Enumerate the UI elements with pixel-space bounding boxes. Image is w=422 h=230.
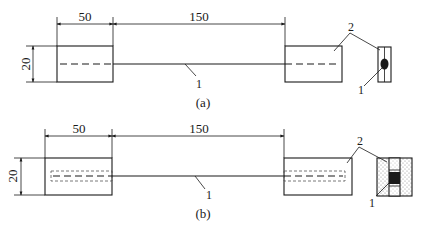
label-wire: 1 [196,77,202,91]
diagram-canvas: 50 150 20 1 (a) 2 1 [0,0,422,230]
embedded-channel-hidden [284,171,345,181]
label-block: 2 [348,20,354,34]
figure-a: 50 150 20 1 (a) 2 1 [18,9,391,110]
leader-line [347,147,359,163]
dimension-label-20: 20 [18,58,33,71]
dimension-label-50: 50 [79,9,92,24]
caption-a: (a) [196,95,210,110]
leader-line [350,33,380,50]
leader-line [359,147,387,162]
label-cross-wire: 1 [358,83,364,97]
dimension-label-150: 150 [189,9,209,24]
figure-b: 50 150 20 1 (b) [5,121,412,221]
label-cross-wire: 1 [369,196,375,210]
leader-line [195,176,205,189]
dimension-label-150: 150 [189,121,209,136]
label-block: 2 [357,134,363,148]
label-wire: 1 [206,188,212,202]
leader-line [364,66,384,86]
dimension-label-50: 50 [73,121,86,136]
caption-b: (b) [195,206,210,221]
dimension-label-20: 20 [5,170,20,183]
leader-line [185,64,196,76]
